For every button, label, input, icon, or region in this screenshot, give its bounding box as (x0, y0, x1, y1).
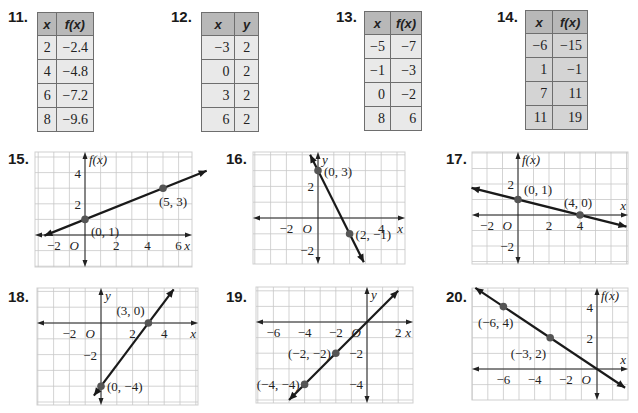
y-tick-label: 2 (587, 331, 594, 346)
x-tick-label: −2 (559, 372, 573, 387)
data-point (546, 334, 554, 342)
y-axis-label: f(x) (601, 288, 619, 303)
y-tick-label: 4 (587, 300, 594, 315)
origin-label: O (582, 372, 592, 387)
x-tick-label: −6 (496, 372, 510, 387)
x-axis-label: x (619, 352, 626, 367)
graph-20: −6−4−224Oxf(x)(−6, 4)(−3, 2) (0, 0, 638, 413)
x-tick-label: −4 (528, 372, 542, 387)
point-label: (−6, 4) (478, 315, 514, 330)
point-label: (−3, 2) (511, 346, 547, 361)
data-point (500, 303, 508, 311)
